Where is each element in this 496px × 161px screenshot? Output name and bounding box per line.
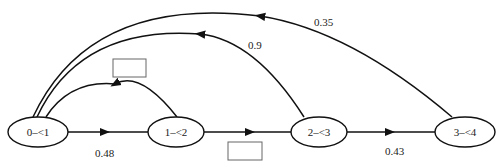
node-label: 3–<4	[454, 126, 477, 138]
edge-3-0	[33, 13, 452, 117]
edge-label-3-0: 0.35	[314, 16, 334, 28]
node-2: 2–<3	[291, 117, 347, 147]
edge-label-2-0: 0.9	[248, 39, 262, 51]
blank-box-1-0[interactable]	[113, 59, 146, 77]
edge-2-0	[37, 33, 304, 117]
edge-label-2-3: 0.43	[385, 145, 405, 157]
transition-diagram: 0–<1 1–<2 2–<3 3–<4 0.48 0.43 0.9 0.35	[0, 0, 496, 161]
node-label: 0–<1	[27, 126, 50, 138]
node-label: 2–<3	[308, 126, 331, 138]
node-1: 1–<2	[148, 117, 204, 147]
edge-1-0	[46, 81, 177, 117]
node-0: 0–<1	[8, 117, 68, 147]
node-label: 1–<2	[165, 126, 188, 138]
blank-box-1-2[interactable]	[228, 142, 262, 160]
node-3: 3–<4	[435, 117, 495, 147]
edge-label-0-1: 0.48	[95, 147, 115, 159]
